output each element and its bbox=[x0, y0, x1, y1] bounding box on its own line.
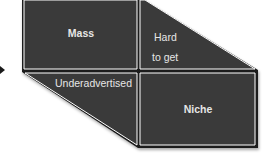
label-to-get: to get bbox=[152, 51, 178, 63]
label-mass: Mass bbox=[68, 27, 94, 39]
arrow-right-icon bbox=[0, 66, 5, 74]
label-niche: Niche bbox=[184, 103, 213, 115]
quadrant-diagram: Mass Hard to get Underadvertised Niche bbox=[0, 0, 270, 164]
label-hard: Hard bbox=[154, 31, 177, 43]
label-underadvertised: Underadvertised bbox=[55, 77, 132, 89]
